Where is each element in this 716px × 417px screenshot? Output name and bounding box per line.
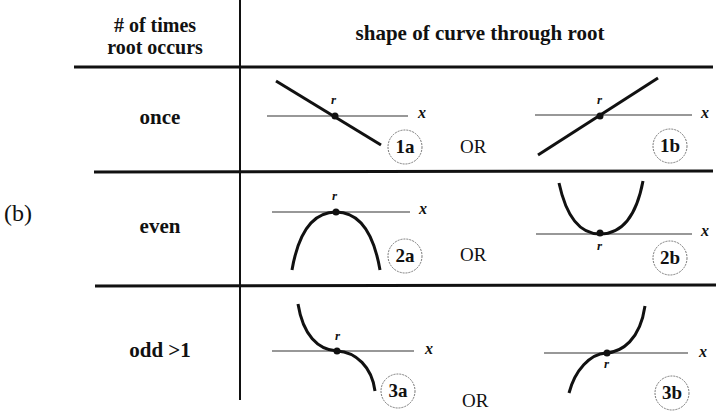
axis-label-2a: x [419, 200, 427, 218]
header-col-shape: shape of curve through root [270, 22, 690, 44]
root-label-1b: r [597, 92, 602, 108]
panel-label: (b) [4, 200, 32, 227]
header-col-count: # of times root occurs [75, 14, 235, 58]
row-label-odd: odd >1 [85, 338, 235, 363]
curve [298, 304, 375, 391]
root-point [334, 348, 341, 355]
root-label-2a: r [332, 188, 337, 204]
root-point [333, 209, 340, 216]
root-point [597, 230, 604, 237]
row-label-even: even [85, 214, 235, 239]
row-label-once: once [85, 105, 235, 130]
diagram-id-1b: 1b [656, 135, 684, 157]
header-col-count-line1: # of times [75, 14, 235, 36]
row-divider-2 [95, 285, 716, 286]
root-point [597, 113, 604, 120]
root-label-1a: r [331, 92, 336, 108]
axis-label-3a: x [425, 340, 433, 358]
row-divider-1 [94, 171, 713, 172]
diagram-id-1a: 1a [391, 136, 419, 158]
axis-label-1b: x [701, 104, 709, 122]
or-separator-3: OR [462, 390, 488, 412]
diagram-id-3b: 3b [658, 382, 686, 404]
root-point [332, 113, 339, 120]
diagram-id-2b: 2b [656, 247, 684, 269]
root-label-3b: r [604, 356, 609, 372]
axis-label-3b: x [699, 343, 707, 361]
diagram-id-3a: 3a [384, 380, 412, 402]
axis-label-2b: x [701, 222, 709, 240]
axis-label-1a: x [418, 104, 426, 122]
header-col-count-line2: root occurs [75, 36, 235, 58]
curve [292, 212, 380, 270]
or-separator-1: OR [460, 136, 486, 158]
root-label-2b: r [597, 238, 602, 254]
root-label-3a: r [335, 328, 340, 344]
curve [276, 81, 381, 145]
or-separator-2: OR [460, 244, 486, 266]
diagram-id-2a: 2a [391, 245, 419, 267]
curve [559, 181, 643, 234]
